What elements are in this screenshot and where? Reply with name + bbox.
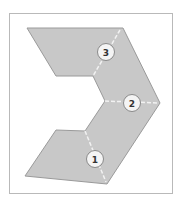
section-badge-2[interactable]: 2 [124, 95, 141, 112]
section-number-3: 3 [103, 48, 109, 58]
section-number-1: 1 [92, 155, 98, 165]
section-number-2: 2 [129, 99, 135, 109]
section-badge-3[interactable]: 3 [98, 44, 115, 61]
diagram-canvas: 3 2 1 [0, 0, 182, 200]
section-badge-1[interactable]: 1 [87, 151, 104, 168]
